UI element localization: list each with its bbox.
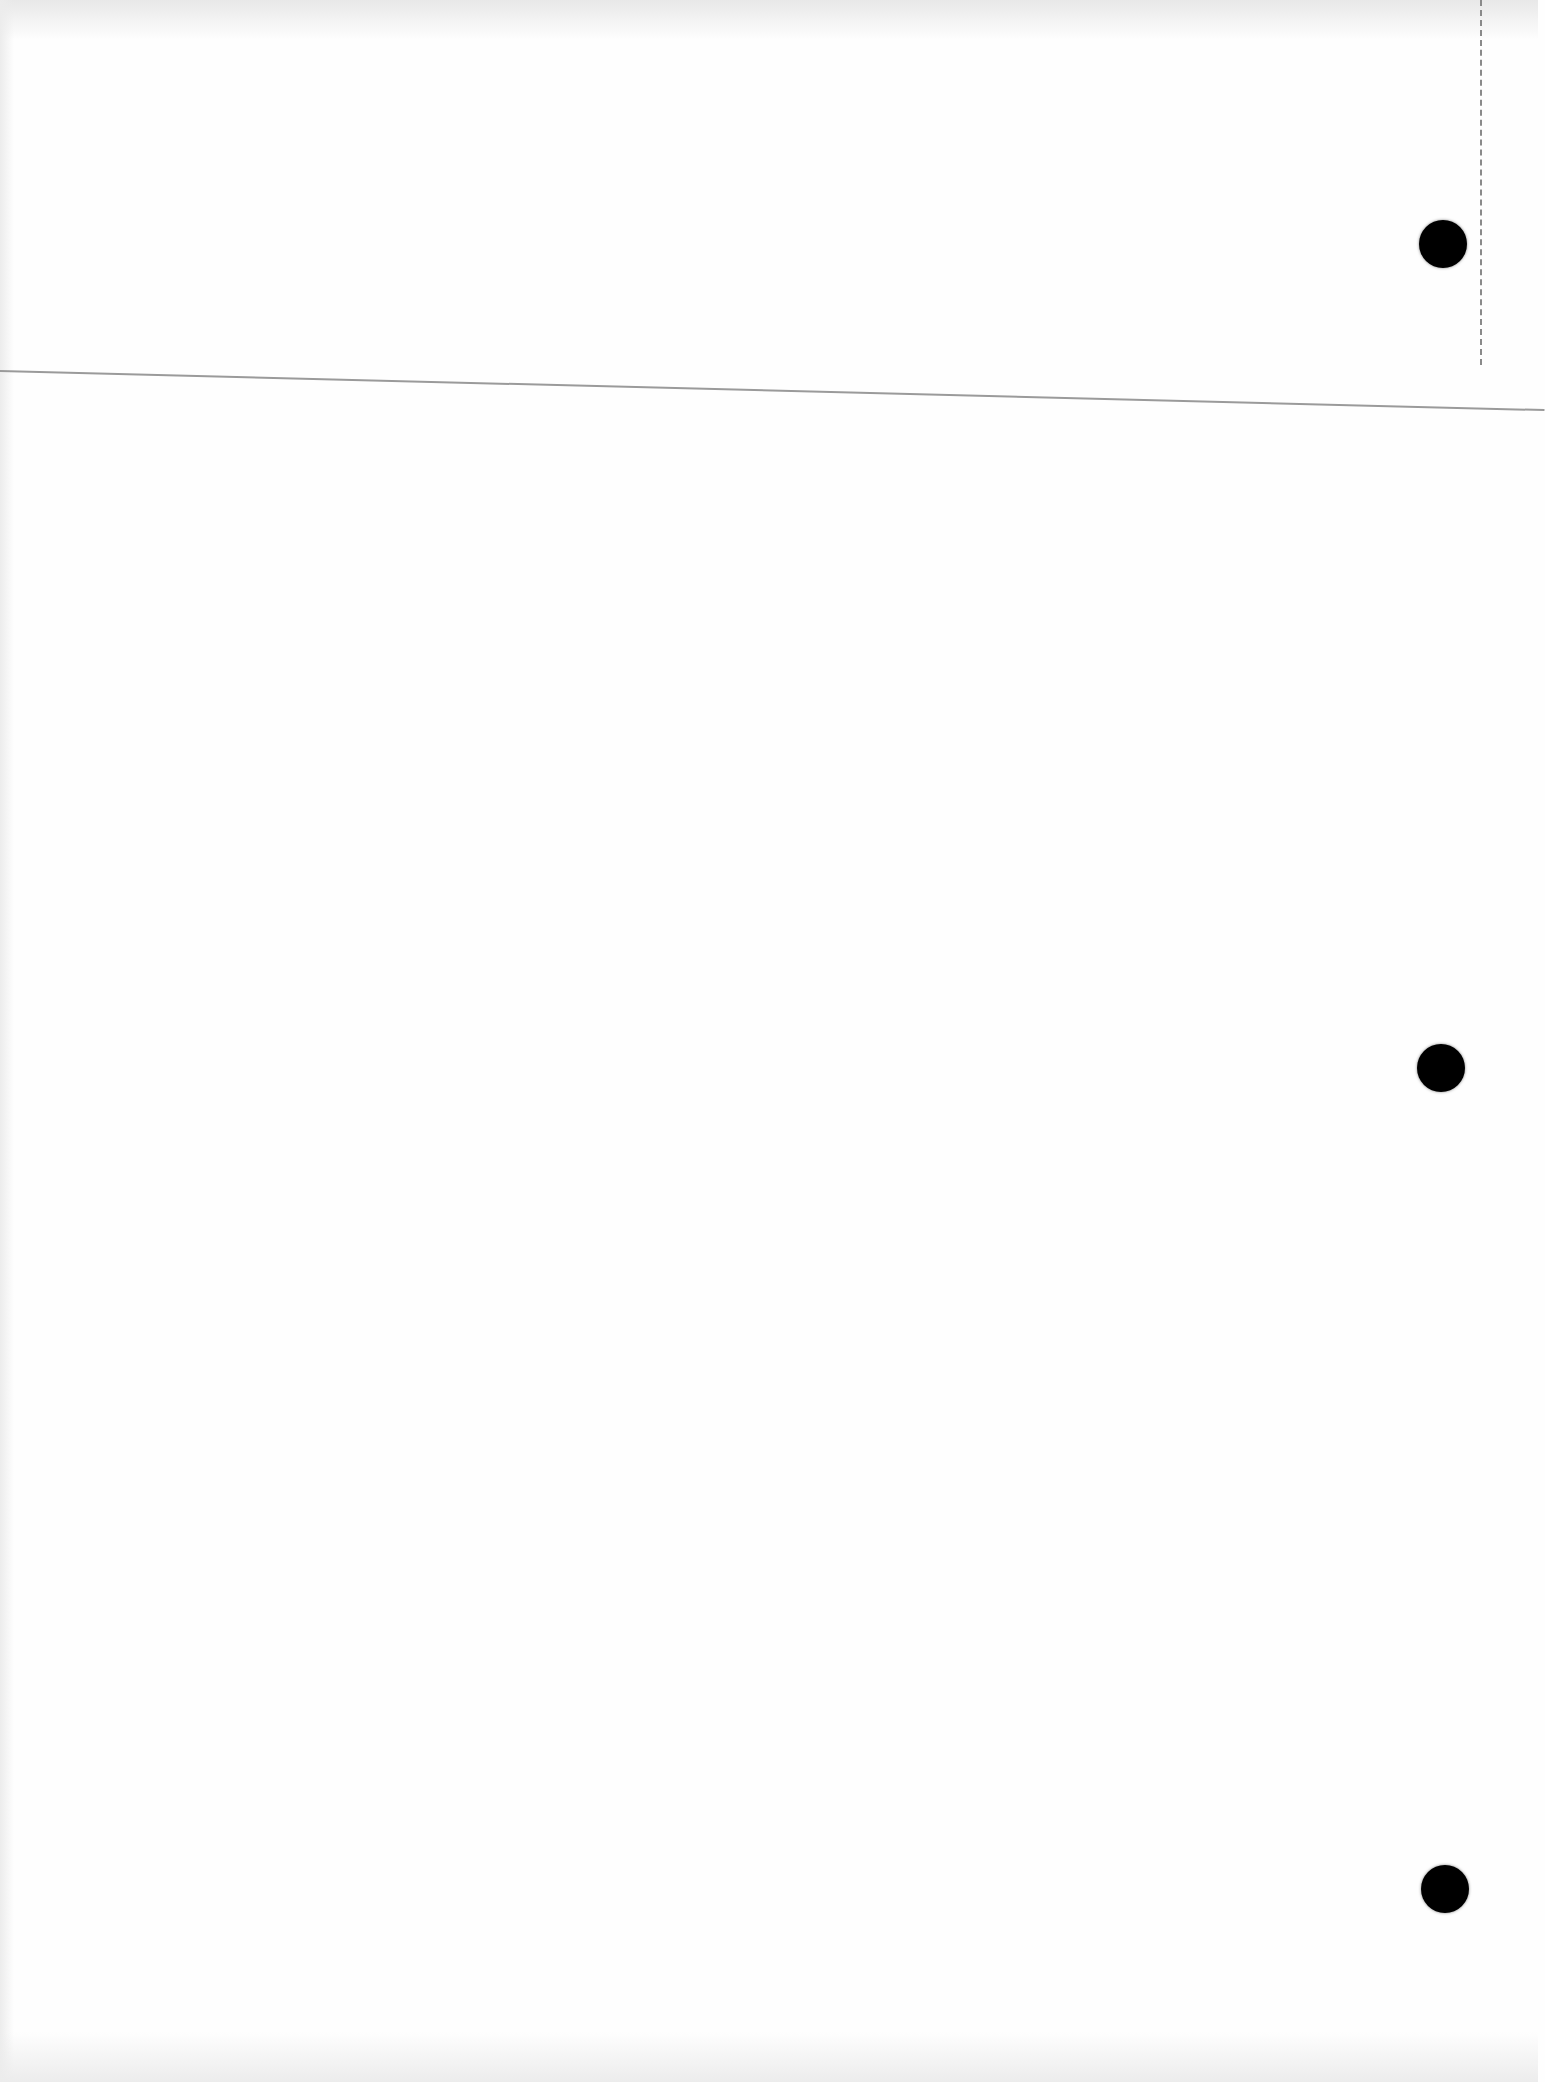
scan-shadow-top [0, 0, 1538, 40]
punch-hole-icon [1421, 1865, 1469, 1913]
punch-hole-icon [1417, 1044, 1465, 1092]
header-rule-line [0, 370, 1545, 411]
scan-shadow-bottom [0, 2032, 1538, 2082]
scan-shadow-left [0, 0, 14, 2082]
punch-hole-icon [1419, 220, 1467, 268]
perforation-line [1480, 0, 1482, 365]
